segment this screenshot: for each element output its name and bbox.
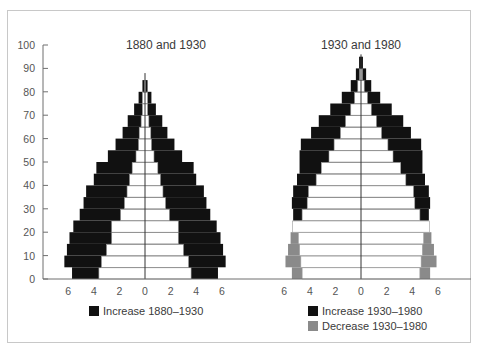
x-tick-label: 6 (65, 285, 71, 297)
legend-label: Increase 1930–1980 (322, 305, 422, 317)
x-tick-label: 6 (219, 285, 225, 297)
x-tick-label: 2 (116, 285, 122, 297)
population-pyramid-chart: 0102030405060708090100 64202466420246 18… (0, 0, 479, 353)
legend-item-increase-1880-1930: Increase 1880–1930 (89, 305, 203, 317)
legend-label: Decrease 1930–1980 (322, 320, 427, 332)
y-tick-label: 100 (17, 39, 35, 51)
legend-swatch-grey (308, 321, 318, 331)
x-tick-label: 2 (384, 285, 390, 297)
legend-swatch-black (308, 306, 318, 316)
x-tick-label: 6 (435, 285, 441, 297)
x-tick-label: 2 (168, 285, 174, 297)
y-tick-label: 40 (23, 179, 35, 191)
legend-swatch-black (89, 306, 99, 316)
y-tick-label: 0 (29, 273, 35, 285)
x-tick-label: 0 (358, 285, 364, 297)
y-tick-label: 30 (23, 203, 35, 215)
y-tick-label: 50 (23, 156, 35, 168)
x-tick-label: 4 (91, 285, 97, 297)
y-tick-label: 90 (23, 62, 35, 74)
y-tick-label: 80 (23, 86, 35, 98)
x-tick-label: 0 (142, 285, 148, 297)
legend-item-increase-1930-1980: Increase 1930–1980 (308, 305, 422, 317)
y-axis: 0102030405060708090100 (17, 39, 48, 285)
x-tick-label: 6 (281, 285, 287, 297)
x-tick-label: 4 (409, 285, 415, 297)
y-tick-label: 20 (23, 226, 35, 238)
chart-title-right: 1930 and 1980 (321, 38, 401, 52)
y-tick-label: 70 (23, 109, 35, 121)
y-tick-label: 10 (23, 250, 35, 262)
x-tick-label: 4 (307, 285, 313, 297)
legend-label: Increase 1880–1930 (103, 305, 203, 317)
y-tick-label: 60 (23, 133, 35, 145)
legend-item-decrease-1930-1980: Decrease 1930–1980 (308, 320, 427, 332)
chart-title-left: 1880 and 1930 (126, 38, 206, 52)
pyramid-1880-1930 (64, 73, 225, 279)
pyramid-1930-1980 (285, 54, 436, 279)
x-axis: 64202466420246 (43, 279, 471, 297)
x-tick-label: 4 (193, 285, 199, 297)
x-tick-label: 2 (332, 285, 338, 297)
